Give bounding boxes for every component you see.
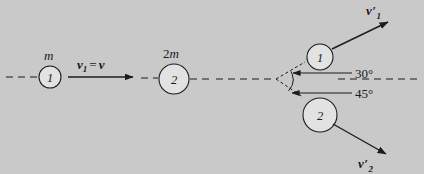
after-velocity-1-subscript: 1 <box>376 11 381 21</box>
after-body-2-number: 2 <box>317 109 323 123</box>
before-body-1-mass-label: m <box>44 48 53 63</box>
after-velocity-1-label: v′1 <box>366 3 381 21</box>
before-body-2-number: 2 <box>171 73 177 87</box>
physics-collision-figure: 1 m v1=v 2 2m <box>0 0 424 174</box>
before-body-2: 2 <box>159 64 189 94</box>
after-velocity-1-symbol: v <box>366 3 372 18</box>
after-velocity-1-arrow-line <box>332 22 388 49</box>
after-velocity-2-label: v′2 <box>358 156 373 174</box>
angle-construction-line-30 <box>276 62 305 79</box>
before-collision-panel: 1 m v1=v 2 2m <box>6 46 212 94</box>
angle-30-label: 30° <box>355 66 373 81</box>
after-collision-panel: 1 2 v′1 v′2 30° 45° <box>216 3 418 174</box>
angle-arc-30 <box>291 71 293 79</box>
before-velocity-subscript: 1 <box>83 64 88 74</box>
after-body-1-number: 1 <box>317 51 323 65</box>
before-velocity-equals: = <box>89 57 96 72</box>
after-velocity-2-symbol: v <box>358 156 364 171</box>
before-body-2-mass-label: 2m <box>163 46 179 61</box>
before-body-1-mass-symbol: m <box>44 48 53 63</box>
before-body-1-number: 1 <box>47 71 53 85</box>
angle-45-label: 45° <box>355 86 373 101</box>
after-velocity-2-arrow-line <box>333 124 386 154</box>
after-body-1: 1 <box>307 44 333 70</box>
before-body-1: 1 <box>39 66 61 88</box>
before-velocity-label: v1=v <box>77 57 105 74</box>
after-velocity-2-subscript: 2 <box>367 164 373 174</box>
before-velocity-value: v <box>99 57 105 72</box>
before-body-2-mass-symbol: m <box>170 46 179 61</box>
after-body-2: 2 <box>303 98 337 132</box>
angle-construction-line-45 <box>276 79 303 97</box>
